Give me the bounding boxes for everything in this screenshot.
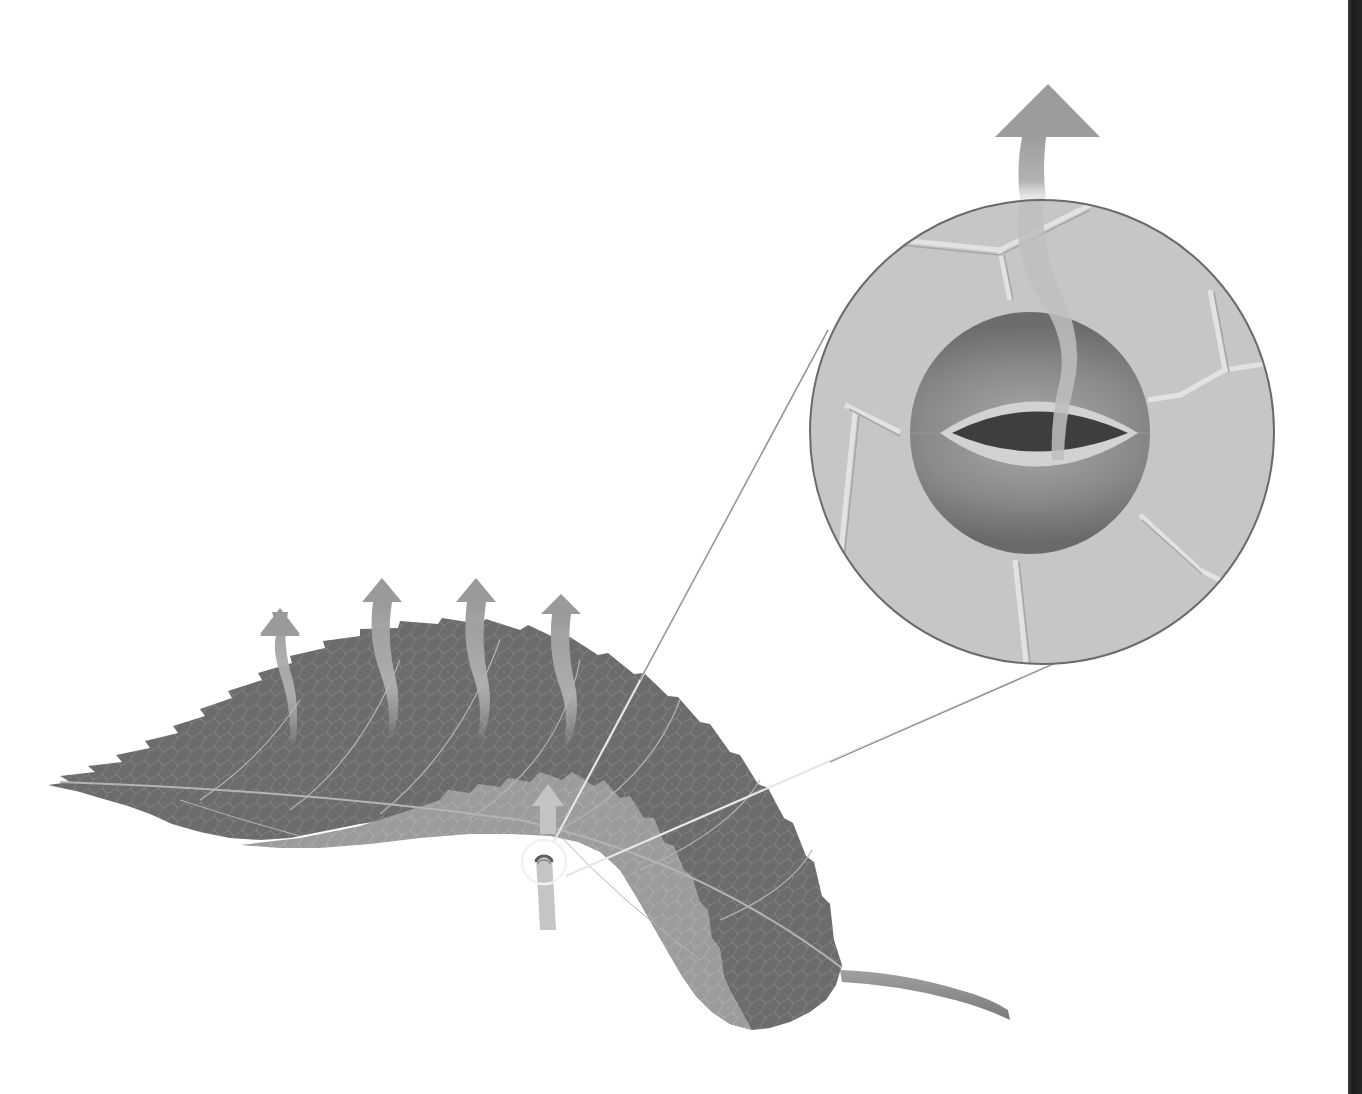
leaf-petiole: [840, 970, 1010, 1020]
guard-cells: [910, 312, 1150, 554]
exit-arrow-head: [995, 84, 1100, 137]
leaf-transpiration-illustration: [0, 0, 1362, 1094]
stoma-vapor-trail: [536, 858, 556, 930]
right-edge-band: [1348, 0, 1362, 1094]
leaf: [48, 618, 1010, 1030]
diagram-canvas: Leaf transpiration through a stoma: [0, 0, 1362, 1094]
magnified-stoma-view: [800, 190, 1290, 700]
exit-vapor-arrow: [995, 84, 1100, 200]
